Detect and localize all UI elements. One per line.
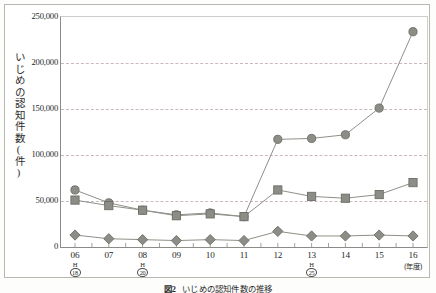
data-point-diamond-10 xyxy=(205,235,215,245)
data-point-square-08 xyxy=(139,206,147,214)
data-point-diamond-11 xyxy=(239,235,249,245)
x-tick-label-16: 16(年度) xyxy=(392,250,434,271)
data-point-diamond-06 xyxy=(70,230,80,240)
x-tick-era-year: 18 xyxy=(54,268,96,277)
y-tick-label: 100,000 xyxy=(12,149,58,159)
y-tick-label: 150,000 xyxy=(12,103,58,113)
x-tick-era: H xyxy=(122,261,164,268)
x-tick-era-year: 20 xyxy=(122,268,164,277)
data-point-square-11 xyxy=(240,213,248,221)
y-tick-label: 200,000 xyxy=(12,57,58,67)
series-diamond xyxy=(70,226,418,245)
series-line xyxy=(75,32,413,217)
data-point-diamond-14 xyxy=(340,231,350,241)
data-point-diamond-13 xyxy=(306,231,316,241)
series-line xyxy=(75,183,413,217)
series-circle xyxy=(71,28,417,221)
data-point-diamond-12 xyxy=(273,226,283,236)
data-point-square-07 xyxy=(105,202,113,210)
x-axis-unit: (年度) xyxy=(392,262,434,271)
caption-number: 図2 xyxy=(164,285,177,293)
data-point-square-10 xyxy=(206,210,214,218)
chart-lines xyxy=(61,17,427,247)
data-point-diamond-08 xyxy=(137,235,147,245)
x-tick-era: H xyxy=(291,261,333,268)
data-point-square-06 xyxy=(71,196,79,204)
x-tick-era-year: 25 xyxy=(291,268,333,277)
y-tick-label: 0 xyxy=(12,241,58,251)
figure-caption: 図2いじめの認知件数の推移 xyxy=(0,282,436,293)
data-point-square-15 xyxy=(375,190,383,198)
y-tick-label: 250,000 xyxy=(12,11,58,21)
data-point-circle-16 xyxy=(409,28,417,36)
data-point-diamond-15 xyxy=(374,230,384,240)
data-point-square-14 xyxy=(341,194,349,202)
y-axis-ticks: 250,000200,000150,000100,00050,0000 xyxy=(10,0,58,293)
data-point-circle-12 xyxy=(274,135,282,143)
data-point-circle-15 xyxy=(375,104,383,112)
data-point-square-09 xyxy=(172,212,180,220)
data-point-diamond-07 xyxy=(104,234,114,244)
data-point-square-13 xyxy=(308,192,316,200)
data-point-circle-06 xyxy=(71,186,79,194)
data-point-square-16 xyxy=(409,179,417,187)
data-point-square-12 xyxy=(274,186,282,194)
x-tick-era: H xyxy=(54,261,96,268)
data-point-circle-13 xyxy=(308,134,316,142)
data-point-diamond-16 xyxy=(408,231,418,241)
data-point-circle-14 xyxy=(341,131,349,139)
figure-container: いじめの認知件数(件) 250,000200,000150,000100,000… xyxy=(0,0,436,293)
y-tick-label: 50,000 xyxy=(12,195,58,205)
series-square xyxy=(71,179,417,221)
plot-area xyxy=(60,16,428,248)
data-point-diamond-09 xyxy=(171,235,181,245)
caption-text: いじめの認知件数の推移 xyxy=(182,285,272,293)
x-tick-year: 16 xyxy=(392,250,434,261)
